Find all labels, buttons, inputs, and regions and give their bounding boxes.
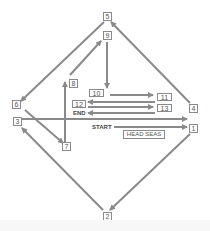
waypoint-8: 8 [69, 79, 78, 88]
end-label: END [73, 110, 86, 116]
arrow-1-to-2 [110, 134, 190, 210]
waypoint-11: 11 [157, 93, 172, 101]
head-seas-label: HEAD SEAS [123, 130, 165, 139]
start-label: START [92, 124, 112, 130]
waypoint-4: 4 [189, 104, 198, 113]
waypoint-7: 7 [62, 142, 71, 151]
waypoint-12: 12 [72, 100, 86, 108]
arrow-4-to-5 [111, 22, 190, 103]
arrow-8-to-9 [70, 41, 101, 75]
waypoint-1: 1 [189, 124, 198, 133]
waypoint-13: 13 [157, 104, 172, 112]
waypoint-3: 3 [13, 117, 22, 126]
waypoint-10: 10 [89, 89, 104, 97]
waypoint-9: 9 [103, 31, 112, 40]
footer-strip [0, 220, 210, 231]
waypoint-6: 6 [12, 100, 21, 109]
arrow-2-to-3 [22, 128, 103, 210]
waypoint-5: 5 [103, 12, 112, 21]
